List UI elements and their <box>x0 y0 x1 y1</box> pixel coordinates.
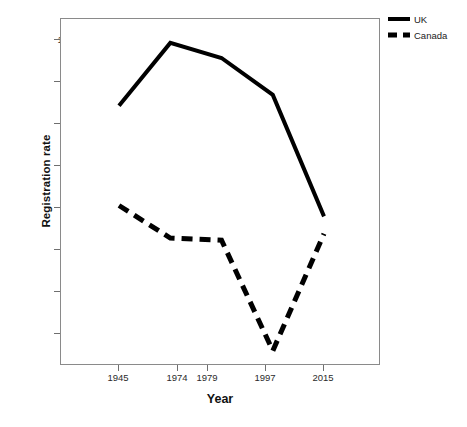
x-tick-label: 1979 <box>177 372 237 383</box>
chart-legend: UK Canada <box>388 12 466 44</box>
plot-area <box>60 18 380 365</box>
x-tick-mark <box>265 365 266 371</box>
legend-swatch-dashed-icon <box>388 29 410 41</box>
legend-swatch-solid-icon <box>388 13 410 25</box>
series-lines <box>61 19 381 366</box>
legend-label: Canada <box>414 30 447 41</box>
x-axis-title: Year <box>60 392 380 406</box>
x-tick-mark <box>207 365 208 371</box>
x-tick-label: 1945 <box>88 372 148 383</box>
legend-label: UK <box>414 14 427 25</box>
x-tick-label: 2015 <box>293 372 353 383</box>
series-line-uk <box>119 43 324 217</box>
x-tick-label: 1997 <box>235 372 295 383</box>
x-tick-mark <box>177 365 178 371</box>
chart-figure: Registration rate 1.00 .98 .96 .94 .92 .… <box>0 0 467 427</box>
x-tick-mark <box>323 365 324 371</box>
x-tick-mark <box>118 365 119 371</box>
series-line-canada <box>119 206 324 351</box>
legend-item-uk: UK <box>388 12 466 26</box>
legend-item-canada: Canada <box>388 28 466 42</box>
